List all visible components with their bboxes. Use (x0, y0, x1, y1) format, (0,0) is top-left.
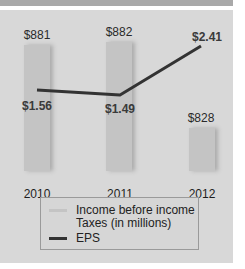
eps-label-2010: $1.56 (12, 99, 62, 113)
chart-panel: $881 $882 $828 $1.56 $1.49 $2.41 2010 20… (0, 10, 233, 263)
legend-label-eps: EPS (76, 232, 100, 245)
chart-legend: Income before income Taxes (in millions)… (40, 197, 199, 250)
top-bar (0, 0, 233, 6)
legend-label-income-2: Taxes (in millions) (76, 217, 171, 230)
eps-label-2011: $1.49 (95, 102, 145, 116)
legend-swatch-bar (49, 209, 67, 212)
eps-label-2012: $2.41 (182, 30, 232, 44)
legend-swatch-line (49, 237, 67, 240)
